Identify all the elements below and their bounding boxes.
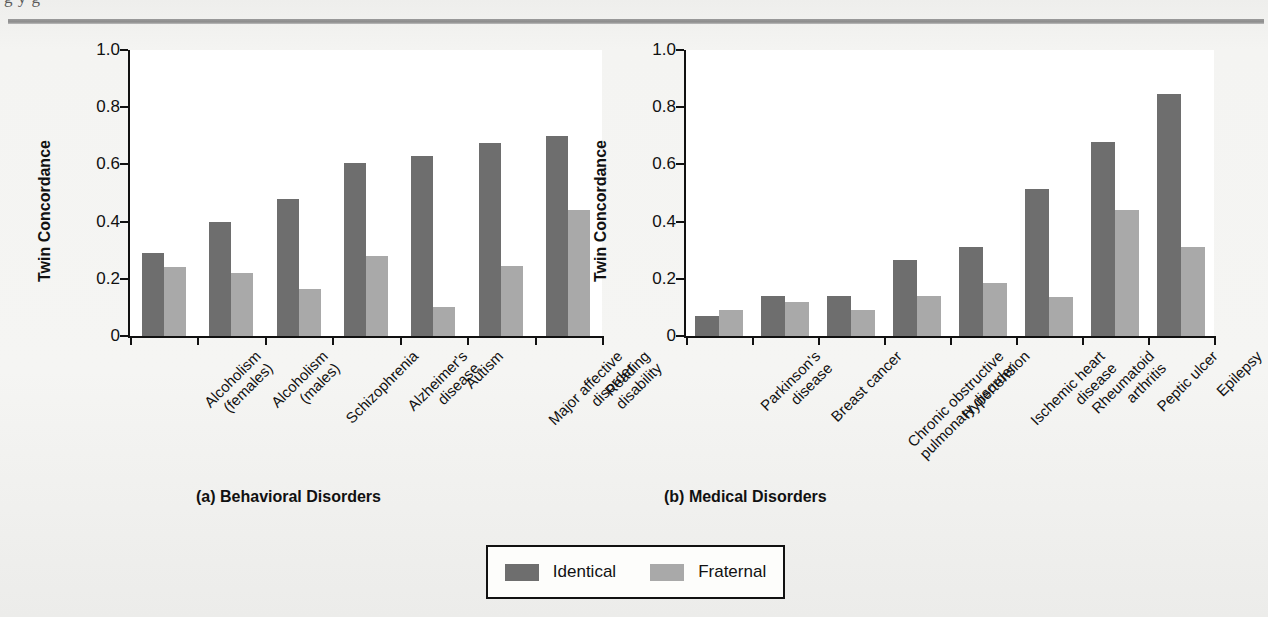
y-tick-mark (120, 49, 128, 51)
bar-identical (761, 296, 785, 336)
y-tick-label: 0.6 (634, 154, 676, 174)
legend-label-fraternal: Fraternal (698, 562, 766, 582)
legend-swatch-identical (505, 564, 539, 581)
x-tick-mark (1148, 336, 1150, 345)
bar-identical (209, 222, 231, 336)
panel-medical-disorders: Twin Concordance 00.20.40.60.81.0 Parkin… (634, 24, 1268, 617)
bar-fraternal (1115, 210, 1139, 336)
x-tick-mark (535, 336, 537, 345)
x-tick-mark (400, 336, 402, 345)
x-axis-label-line: Peptic ulcer (1154, 348, 1221, 415)
x-axis-label: Peptic ulcer (1154, 348, 1221, 415)
x-tick-mark (818, 336, 820, 345)
bar-fraternal (851, 310, 875, 336)
bar-fraternal (501, 266, 523, 336)
bar-identical (344, 163, 366, 336)
y-tick-label: 0.4 (0, 212, 120, 232)
y-axis-line-b (684, 50, 686, 338)
legend: IdenticalFraternal (486, 545, 785, 599)
y-tick-label: 1.0 (0, 40, 120, 60)
bar-fraternal (1181, 247, 1205, 336)
y-tick-mark (676, 221, 684, 223)
x-axis-label: Alcoholism(females) (201, 348, 276, 423)
y-tick-label: 0.2 (0, 269, 120, 289)
y-axis-title-b: Twin Concordance (592, 140, 610, 282)
y-tick-label: 0.8 (0, 97, 120, 117)
x-axis-label: Epilepsy (1214, 348, 1266, 400)
bar-fraternal (299, 289, 321, 336)
bar-identical (277, 199, 299, 336)
bar-identical (479, 143, 501, 336)
x-tick-mark (197, 336, 199, 345)
x-tick-mark (467, 336, 469, 345)
y-tick-mark (676, 335, 684, 337)
x-axis-label: Schizophrenia (342, 348, 421, 427)
bar-fraternal (164, 267, 186, 336)
x-tick-mark (950, 336, 952, 345)
bar-identical (959, 247, 983, 336)
bar-fraternal (433, 307, 455, 336)
x-axis-label: Alcoholism(males) (268, 348, 343, 423)
x-axis-label-line: Breast cancer (828, 348, 905, 425)
x-tick-mark (884, 336, 886, 345)
bar-fraternal (719, 310, 743, 336)
bar-identical (1157, 94, 1181, 336)
bar-fraternal (366, 256, 388, 336)
y-tick-label: 0.2 (634, 269, 676, 289)
panel-caption-a: (a) Behavioral Disorders (196, 488, 381, 506)
y-tick-label: 0.4 (634, 212, 676, 232)
bar-identical (893, 260, 917, 336)
x-tick-mark (686, 336, 688, 345)
bar-identical (546, 136, 568, 336)
bar-fraternal (1049, 297, 1073, 336)
cropped-header-text: g y g (0, 0, 1268, 8)
bar-identical (1025, 189, 1049, 336)
bar-identical (827, 296, 851, 336)
bar-identical (695, 316, 719, 336)
x-axis-label: Autism (463, 348, 507, 392)
panel-caption-b: (b) Medical Disorders (664, 488, 827, 506)
x-axis-label-line: Epilepsy (1214, 348, 1266, 400)
x-axis-label-line: Schizophrenia (342, 348, 421, 427)
x-tick-mark (130, 336, 132, 345)
y-tick-label: 0.6 (0, 154, 120, 174)
bar-identical (142, 253, 164, 336)
y-tick-mark (676, 163, 684, 165)
legend-item-identical: Identical (505, 562, 616, 582)
y-tick-mark (120, 278, 128, 280)
bar-identical (411, 156, 433, 336)
x-tick-mark (265, 336, 267, 345)
panel-behavioral-disorders: Twin Concordance 00.20.40.60.81.0 Alcoho… (0, 24, 634, 617)
y-tick-mark (120, 221, 128, 223)
y-tick-mark (676, 278, 684, 280)
figure: Twin Concordance 00.20.40.60.81.0 Alcoho… (0, 24, 1268, 617)
legend-label-identical: Identical (553, 562, 616, 582)
legend-item-fraternal: Fraternal (650, 562, 766, 582)
bar-identical (1091, 142, 1115, 336)
y-tick-mark (676, 106, 684, 108)
x-axis-label: Parkinson'sdisease (758, 348, 836, 426)
y-tick-mark (120, 335, 128, 337)
bar-fraternal (568, 210, 590, 336)
x-axis-line-a (128, 336, 604, 338)
bar-fraternal (785, 302, 809, 336)
x-axis-label-line: Autism (463, 348, 507, 392)
y-tick-mark (120, 106, 128, 108)
x-tick-mark (602, 336, 604, 345)
bar-fraternal (231, 273, 253, 336)
y-tick-label: 0 (0, 326, 120, 346)
x-axis-label: Breast cancer (828, 348, 905, 425)
x-tick-mark (1214, 336, 1216, 345)
x-tick-mark (332, 336, 334, 345)
x-tick-mark (1016, 336, 1018, 345)
y-tick-mark (120, 163, 128, 165)
x-tick-mark (1082, 336, 1084, 345)
legend-swatch-fraternal (650, 564, 684, 581)
bar-fraternal (983, 283, 1007, 336)
y-axis-line-a (128, 50, 130, 338)
y-tick-label: 1.0 (634, 40, 676, 60)
y-tick-mark (676, 49, 684, 51)
bar-fraternal (917, 296, 941, 336)
x-tick-mark (752, 336, 754, 345)
y-tick-label: 0.8 (634, 97, 676, 117)
